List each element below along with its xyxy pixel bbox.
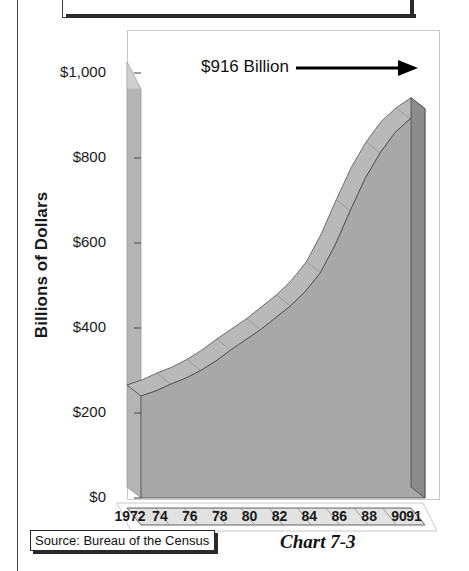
chart-axis-wall-group (127, 62, 141, 498)
y-axis-tick-label: $800 (73, 148, 106, 165)
chart-caption: Chart 7-3 (280, 531, 356, 553)
x-axis-tick-label: 88 (361, 508, 377, 524)
y-axis-tick-labels: $1,000$800$600$400$200$0 (0, 0, 106, 571)
y-axis-tick-label: $400 (73, 318, 106, 335)
annotation-arrow-group (296, 60, 418, 76)
x-axis-tick-label: 84 (302, 508, 318, 524)
x-axis-tick-label: 1972 (114, 508, 145, 524)
y-axis-title: Billions of Dollars (32, 165, 52, 365)
y-axis-tick-label: $1,000 (60, 63, 106, 80)
x-axis-tick-label: 78 (212, 508, 228, 524)
y-axis-tick-label: $200 (73, 403, 106, 420)
x-axis-tick-label: 74 (152, 508, 168, 524)
x-axis-tick-label: 86 (331, 508, 347, 524)
x-axis-tick-label: 90 (391, 508, 407, 524)
annotation-label: $916 Billion (201, 57, 289, 77)
y-axis-tick-label: $0 (89, 488, 106, 505)
x-axis-tick-label: 91 (406, 508, 422, 524)
x-axis-tick-label: 76 (182, 508, 198, 524)
x-axis-tick-label: 80 (242, 508, 258, 524)
x-axis-tick-label: 82 (272, 508, 288, 524)
y-axis-tick-label: $600 (73, 233, 106, 250)
source-note: Source: Bureau of the Census (30, 530, 215, 551)
chart-area-series-group (127, 98, 425, 498)
